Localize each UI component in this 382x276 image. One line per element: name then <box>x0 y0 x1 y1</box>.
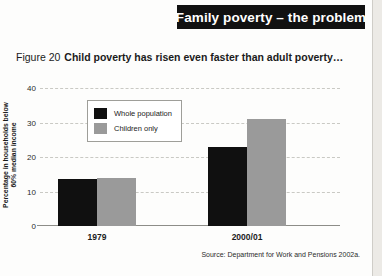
y-axis-tick-label: 20 <box>6 153 36 162</box>
gridline <box>40 157 340 158</box>
bar <box>247 119 286 226</box>
legend-label: Children only <box>114 124 158 133</box>
figure-number: Figure 20 <box>16 51 60 63</box>
x-axis-tick-label: 2000/01 <box>232 232 263 242</box>
legend-label: Whole population <box>114 109 172 118</box>
legend: Whole population Children only <box>87 100 182 142</box>
bar <box>58 179 97 226</box>
legend-swatch-children-only <box>94 123 107 134</box>
y-axis-tick-label: 10 <box>6 187 36 196</box>
bar <box>97 178 136 226</box>
y-axis-tick-label: 0 <box>6 222 36 231</box>
legend-item: Children only <box>94 121 172 136</box>
y-axis-tick-label: 30 <box>6 118 36 127</box>
plot-area: 010203040 19792000/01 Whole population C… <box>40 88 340 226</box>
source-note: Source: Department for Work and Pensions… <box>201 251 360 258</box>
legend-item: Whole population <box>94 106 172 121</box>
figure-caption: Figure 20Child poverty has risen even fa… <box>16 51 343 63</box>
gridline <box>40 88 340 89</box>
page-outer-edge <box>372 0 382 276</box>
bar <box>208 147 247 226</box>
legend-swatch-whole-population <box>94 108 107 119</box>
banner-title: Family poverty – the problem <box>176 10 366 25</box>
page: Family poverty – the problem Figure 20Ch… <box>0 0 382 276</box>
y-axis-tick-label: 40 <box>6 84 36 93</box>
gridline <box>40 123 340 124</box>
figure-title: Child poverty has risen even faster than… <box>64 51 343 63</box>
section-banner: Family poverty – the problem <box>177 5 365 29</box>
chart: Percentage in households below 60% media… <box>0 80 372 255</box>
x-axis-tick-label: 1979 <box>88 232 107 242</box>
